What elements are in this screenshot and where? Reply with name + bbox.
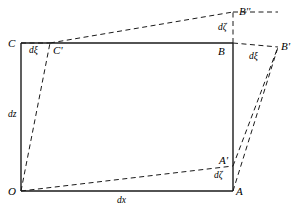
- vertex-label-A: A: [236, 186, 243, 197]
- displaced-point-label-Bp: B': [281, 41, 290, 52]
- diagram-canvas: [0, 0, 299, 211]
- displaced-point-label-Bpp: B'': [239, 6, 250, 17]
- dimension-label-dzeta-top: dζ: [218, 23, 227, 33]
- displaced-point-label-Ap: A': [219, 155, 228, 166]
- vertex-label-O: O: [8, 186, 16, 197]
- dimension-label-dx: dx: [117, 196, 126, 206]
- dimension-label-dzeta-bot: dζ: [214, 171, 223, 181]
- dash-O-Ap: [21, 166, 233, 191]
- rectangle-edges: [21, 43, 233, 191]
- dash-Ap-Bp: [233, 47, 278, 166]
- dash-B-Bp: [233, 43, 278, 47]
- displaced-point-label-Cp: C': [53, 45, 63, 56]
- dash-Cp-Bpp: [50, 12, 233, 43]
- vertex-label-B: B: [218, 46, 225, 57]
- deformed-outline: [21, 12, 278, 191]
- dash-O-Cp: [21, 43, 50, 191]
- vertex-label-C: C: [8, 38, 15, 49]
- dimension-label-dz: dz: [8, 110, 16, 120]
- deformation-diagram: OABCA'B'B''C'dxdzdξdξdζdζ: [0, 0, 299, 211]
- dash-A-Bp: [233, 47, 278, 191]
- dimension-label-dxi-right: dξ: [249, 52, 258, 62]
- dimension-label-dxi-top: dξ: [29, 46, 38, 56]
